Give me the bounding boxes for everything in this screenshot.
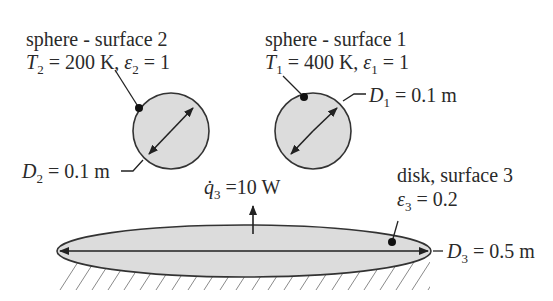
heat-rate-label: q̇3 =10 W (204, 176, 280, 198)
sphere1-marker-dot (300, 93, 308, 101)
sphere2-title: sphere - surface 2 (26, 28, 168, 50)
sphere2-diameter-label: D2 = 0.1 m (22, 160, 110, 182)
disk-emissivity: ε3 = 0.2 (397, 188, 458, 210)
sphere1-properties: T1 = 400 K, ε1 = 1 (265, 51, 409, 73)
sphere1-diameter-label: D1 = 0.1 m (369, 84, 457, 106)
disk-diameter-label: D3 = 0.5 m (447, 240, 535, 262)
disk-marker-dot (388, 238, 396, 246)
sphere1-title: sphere - surface 1 (265, 28, 407, 50)
disk-title: disk, surface 3 (397, 164, 513, 186)
sphere2-properties: T2 = 200 K, ε2 = 1 (26, 51, 170, 73)
sphere2-marker-dot (135, 104, 143, 112)
